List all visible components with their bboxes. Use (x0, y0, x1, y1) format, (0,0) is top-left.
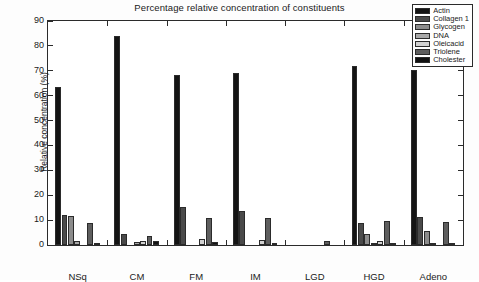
y-tick-label: 30 (34, 164, 44, 174)
x-tick-mark (285, 240, 286, 245)
y-tick-mark-right (458, 145, 463, 146)
y-tick-mark-right (458, 220, 463, 221)
legend-swatch-icon (415, 16, 430, 22)
bar (352, 66, 358, 245)
y-tick-mark-right (458, 70, 463, 71)
legend-swatch-icon (415, 33, 430, 39)
y-tick-mark (48, 145, 53, 146)
bar-group (114, 21, 159, 245)
bar (384, 221, 390, 245)
bar (153, 241, 159, 245)
x-tick-mark (404, 240, 405, 245)
legend-swatch-icon (415, 24, 430, 30)
y-tick-mark (48, 120, 53, 121)
y-tick-label: 40 (34, 139, 44, 149)
bar-group (292, 21, 337, 245)
x-tick-mark-top (226, 21, 227, 26)
bar (134, 242, 140, 245)
y-tick-mark-right (458, 195, 463, 196)
bar (371, 243, 377, 245)
bar (147, 236, 153, 245)
bar (390, 243, 396, 245)
y-tick-mark (48, 95, 53, 96)
bar (62, 215, 68, 245)
bar-group (55, 21, 100, 245)
x-axis-label-adeno: Adeno (420, 271, 447, 282)
y-tick-mark (48, 195, 53, 196)
bar (364, 234, 370, 245)
y-tick-mark (48, 21, 53, 22)
legend-swatch-icon (415, 49, 430, 55)
x-tick-mark-top (167, 21, 168, 26)
bar (212, 242, 218, 245)
bar (174, 75, 180, 245)
legend-swatch-icon (415, 57, 430, 63)
x-axis-label-im: IM (250, 271, 261, 282)
x-axis-label-nsq: NSq (68, 271, 86, 282)
x-tick-mark (107, 240, 108, 245)
bar (180, 207, 186, 245)
x-axis-label-fm: FM (189, 271, 203, 282)
bar (358, 223, 364, 245)
x-tick-mark (344, 240, 345, 245)
legend-swatch-icon (415, 8, 430, 14)
bar-group (352, 21, 397, 245)
y-tick-mark (48, 220, 53, 221)
x-axis-label-hgd: HGD (364, 271, 385, 282)
bar (55, 87, 61, 245)
chart-title: Percentage relative concentration of con… (0, 2, 479, 13)
bar (324, 241, 330, 245)
y-tick-mark-right (458, 95, 463, 96)
bar (239, 211, 245, 245)
y-tick-mark (48, 70, 53, 71)
x-tick-mark-top (404, 21, 405, 26)
bar (74, 241, 80, 245)
bar (265, 218, 271, 245)
y-tick-mark-right (458, 170, 463, 171)
y-tick-label: 80 (34, 40, 44, 50)
y-tick-label: 70 (34, 65, 44, 75)
x-axis-label-lgd: LGD (305, 271, 325, 282)
bar (114, 36, 120, 245)
bar (199, 239, 205, 245)
legend-swatch-icon (415, 41, 430, 47)
bar (430, 243, 436, 245)
y-tick-mark-right (458, 120, 463, 121)
bar (94, 243, 100, 245)
bar (87, 223, 93, 245)
y-tick-mark (48, 245, 53, 246)
bar (272, 243, 278, 245)
x-tick-mark-top (344, 21, 345, 26)
bar (206, 218, 212, 245)
y-tick-mark-right (458, 245, 463, 246)
bar (443, 222, 449, 245)
plot-inner: 0102030405060708090NSqCMFMIMLGDHGDAdeno (48, 21, 463, 245)
y-tick-label: 0 (39, 239, 44, 249)
bar (417, 217, 423, 245)
bar (449, 243, 455, 245)
x-tick-mark (167, 240, 168, 245)
y-tick-label: 90 (34, 15, 44, 25)
bar (377, 241, 383, 245)
legend-label: Cholester (433, 56, 465, 64)
y-tick-label: 10 (34, 214, 44, 224)
y-tick-label: 60 (34, 90, 44, 100)
x-tick-mark-top (107, 21, 108, 26)
plot-area: Relative concentration (%) 0102030405060… (47, 20, 464, 246)
bar-group (174, 21, 219, 245)
bar (259, 240, 265, 245)
chart-legend: ActinCollagen 1GlycogenDNAOleicacidTriol… (412, 4, 473, 67)
x-axis-label-cm: CM (130, 271, 145, 282)
y-tick-mark (48, 45, 53, 46)
y-tick-label: 50 (34, 115, 44, 125)
y-tick-label: 20 (34, 189, 44, 199)
x-tick-mark-top (285, 21, 286, 26)
bar (68, 216, 74, 245)
x-tick-mark (226, 240, 227, 245)
bar-group (233, 21, 278, 245)
bar (121, 234, 127, 245)
y-tick-mark (48, 170, 53, 171)
bar (140, 241, 146, 245)
bar (424, 231, 430, 245)
